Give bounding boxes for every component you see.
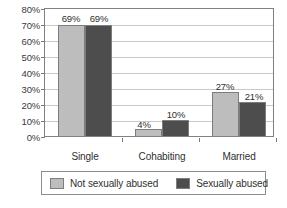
legend-label-sexually-abused: Sexually abused bbox=[196, 178, 268, 189]
x-axis-label-married: Married bbox=[222, 151, 255, 162]
bar-single-sexually-abused bbox=[85, 25, 112, 136]
bar-married-not-sexually-abused bbox=[212, 92, 239, 136]
y-axis-tick-label: 80% bbox=[4, 4, 40, 15]
value-label-married-not-sexually-abused: 27% bbox=[216, 81, 234, 92]
legend-entry-sexually-abused: Sexually abused bbox=[176, 172, 268, 194]
chart-legend: Not sexually abused Sexually abused bbox=[41, 171, 266, 195]
bar-single-not-sexually-abused bbox=[58, 25, 85, 136]
legend-entry-not-sexually-abused: Not sexually abused bbox=[50, 172, 158, 194]
legend-swatch-dark-gray-icon bbox=[176, 178, 190, 189]
y-axis-tick-label: 30% bbox=[4, 84, 40, 95]
y-tickmark-60 bbox=[41, 41, 45, 42]
y-tickmark-80 bbox=[41, 9, 45, 10]
y-tickmark-10 bbox=[41, 121, 45, 122]
x-tickmark-2 bbox=[199, 138, 200, 142]
y-tickmark-30 bbox=[41, 89, 45, 90]
y-axis-tick-label: 10% bbox=[4, 116, 40, 127]
bar-chart: 80% 70% 60% 50% 40% 30% 20% 10% 0% bbox=[0, 0, 287, 208]
y-tickmark-40 bbox=[41, 73, 45, 74]
legend-label-not-sexually-abused: Not sexually abused bbox=[70, 178, 158, 189]
y-tickmark-70 bbox=[41, 25, 45, 26]
x-tickmark-1 bbox=[122, 138, 123, 142]
value-label-cohabiting-sexually-abused: 10% bbox=[167, 109, 185, 120]
value-label-married-sexually-abused: 21% bbox=[245, 91, 263, 102]
bar-cohabiting-not-sexually-abused bbox=[135, 129, 162, 136]
x-axis-label-cohabiting: Cohabiting bbox=[139, 151, 186, 162]
x-axis-label-single: Single bbox=[71, 151, 98, 162]
bar-married-sexually-abused bbox=[239, 102, 266, 136]
value-label-single-sexually-abused: 69% bbox=[90, 13, 108, 24]
y-axis-tick-label: 0% bbox=[4, 132, 40, 143]
value-label-single-not-sexually-abused: 69% bbox=[62, 13, 80, 24]
value-label-cohabiting-not-sexually-abused: 4% bbox=[137, 119, 150, 130]
y-axis-tick-label: 70% bbox=[4, 20, 40, 31]
y-axis-tick-label: 20% bbox=[4, 100, 40, 111]
y-axis-tick-label: 40% bbox=[4, 68, 40, 79]
y-tickmark-20 bbox=[41, 105, 45, 106]
x-tickmark-3 bbox=[276, 138, 277, 142]
legend-swatch-light-gray-icon bbox=[50, 178, 64, 189]
bar-cohabiting-sexually-abused bbox=[162, 120, 189, 136]
y-tickmark-0 bbox=[41, 137, 45, 138]
plot-area: 69% 69% 4% 10% 27% 21% Single Cohabiting… bbox=[44, 8, 274, 137]
y-axis-tick-label: 60% bbox=[4, 36, 40, 47]
y-tickmark-50 bbox=[41, 57, 45, 58]
y-axis-tick-label: 50% bbox=[4, 52, 40, 63]
